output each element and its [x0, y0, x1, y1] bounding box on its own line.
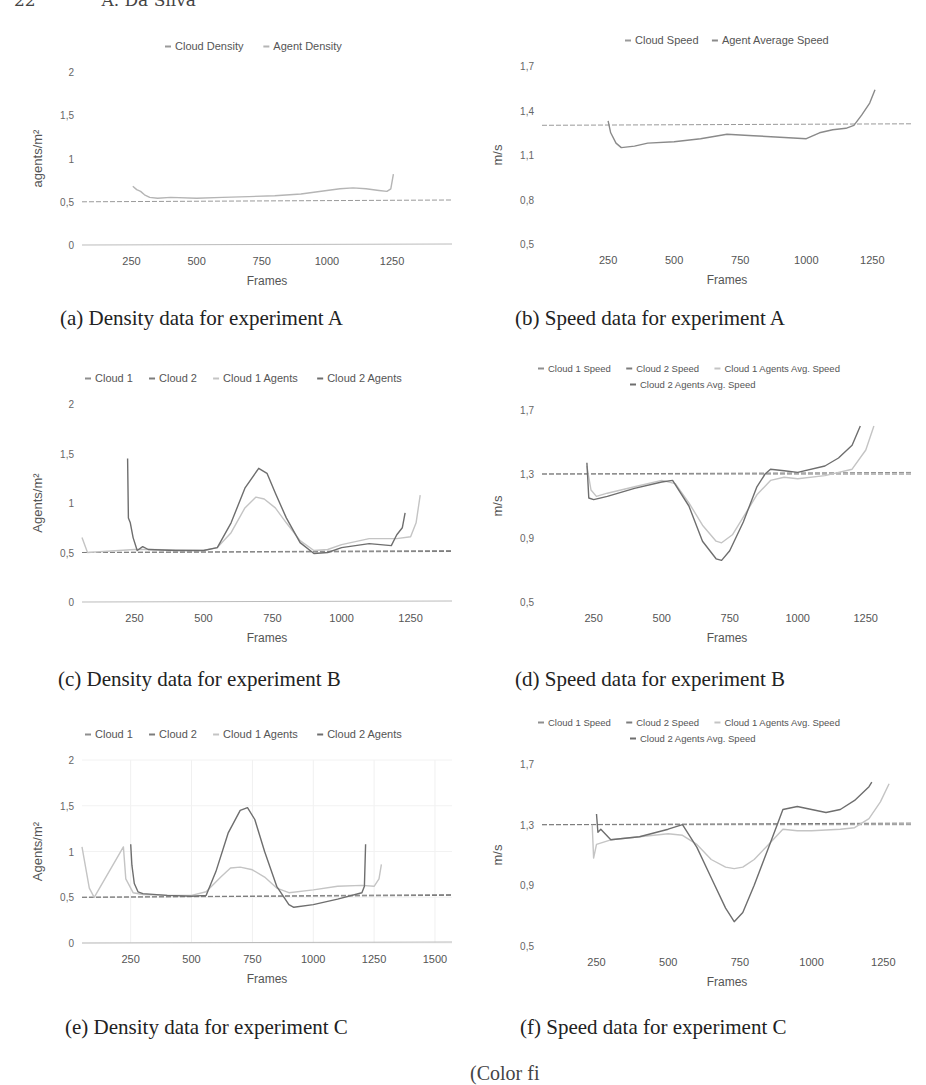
series-line	[592, 784, 889, 869]
x-tick-label: 500	[182, 953, 200, 965]
y-tick-label: 0,5	[60, 197, 74, 208]
y-axis-label: Agents/m²	[30, 821, 45, 881]
chart-legend: Cloud 1Cloud 2Cloud 1 AgentsCloud 2 Agen…	[85, 372, 402, 384]
x-tick-label: 250	[585, 612, 603, 624]
x-tick-label: 1250	[362, 953, 386, 965]
legend-label: Cloud 1 Agents	[223, 372, 298, 384]
y-tick-label: 1,4	[520, 106, 534, 117]
y-tick-label: 0,5	[520, 239, 534, 250]
caption-a: (a) Density data for experiment A	[60, 306, 343, 331]
x-axis-label: Frames	[707, 975, 748, 989]
legend-label: Cloud 1 Speed	[548, 717, 611, 728]
legend-label: Cloud 1 Speed	[548, 363, 611, 374]
legend-label: Cloud 2 Speed	[636, 363, 699, 374]
caption-d: (d) Speed data for experiment B	[515, 667, 785, 692]
legend-label: Agent Density	[273, 40, 342, 52]
caption-c: (c) Density data for experiment B	[58, 667, 341, 692]
y-tick-label: 0,5	[520, 941, 534, 952]
legend-label: Cloud 1	[95, 728, 133, 740]
y-tick-label: 0	[68, 597, 74, 608]
caption-f: (f) Speed data for experiment C	[520, 1015, 786, 1040]
x-tick-label: 1000	[329, 612, 353, 624]
legend-label: Cloud 2 Agents	[327, 728, 402, 740]
y-tick-label: 1,7	[520, 759, 534, 770]
x-tick-label: 1250	[871, 956, 895, 968]
x-tick-label: 1000	[315, 255, 339, 267]
x-axis-label: Frames	[247, 631, 288, 645]
caption-b: (b) Speed data for experiment A	[515, 306, 785, 331]
series-line	[131, 808, 366, 908]
legend-label: Cloud 2	[159, 372, 197, 384]
chart-svg: Cloud 1 SpeedCloud 2 SpeedCloud 1 Agents…	[480, 712, 920, 1002]
y-tick-label: 0,9	[520, 533, 534, 544]
y-tick-label: 0,5	[520, 597, 534, 608]
x-tick-label: 250	[122, 255, 140, 267]
legend-label: Cloud Speed	[635, 34, 699, 46]
chart-d-speed-experiment-b: Cloud 1 SpeedCloud 2 SpeedCloud 1 Agents…	[480, 358, 920, 658]
chart-legend: Cloud 1 SpeedCloud 2 SpeedCloud 1 Agents…	[538, 717, 840, 744]
chart-legend: Cloud 1 SpeedCloud 2 SpeedCloud 1 Agents…	[538, 363, 840, 390]
series-line	[82, 552, 452, 553]
chart-svg: Cloud DensityAgent Density00,511,5225050…	[20, 36, 460, 301]
y-tick-label: 2	[68, 399, 74, 410]
legend-label: Cloud 2 Agents Avg. Speed	[640, 733, 756, 744]
x-tick-label: 500	[659, 956, 677, 968]
legend-label: Cloud 2 Agents Avg. Speed	[640, 379, 756, 390]
x-tick-label: 1000	[785, 612, 809, 624]
x-tick-label: 750	[731, 254, 749, 266]
y-axis-label: m/s	[490, 144, 505, 165]
x-tick-label: 1250	[854, 612, 878, 624]
series-line	[82, 200, 452, 202]
chart-f-speed-experiment-c: Cloud 1 SpeedCloud 2 SpeedCloud 1 Agents…	[480, 712, 920, 1002]
x-tick-label: 250	[587, 956, 605, 968]
x-axis-label: Frames	[247, 972, 288, 986]
y-axis-label: m/s	[490, 495, 505, 516]
x-tick-label: 1000	[794, 254, 818, 266]
x-tick-label: 750	[731, 956, 749, 968]
chart-svg: Cloud 1 SpeedCloud 2 SpeedCloud 1 Agents…	[480, 358, 920, 658]
chart-svg: Cloud 1Cloud 2Cloud 1 AgentsCloud 2 Agen…	[20, 724, 460, 999]
x-tick-label: 1250	[860, 254, 884, 266]
x-axis-line	[82, 244, 452, 245]
legend-label: Cloud 1 Agents Avg. Speed	[724, 363, 840, 374]
x-tick-label: 500	[194, 612, 212, 624]
x-tick-label: 1250	[380, 255, 404, 267]
series-line	[542, 124, 912, 126]
x-axis-line	[82, 601, 452, 602]
y-tick-label: 0,8	[520, 195, 534, 206]
legend-label: Cloud 2 Speed	[636, 717, 699, 728]
chart-e-density-experiment-c: Cloud 1Cloud 2Cloud 1 AgentsCloud 2 Agen…	[20, 724, 460, 999]
page-number: 22	[14, 0, 96, 10]
y-tick-label: 1	[68, 154, 74, 165]
x-tick-label: 500	[187, 255, 205, 267]
footer-partial-text: (Color fi	[470, 1062, 539, 1085]
running-head: A. Da Silva	[101, 0, 196, 10]
chart-c-density-experiment-b: Cloud 1Cloud 2Cloud 1 AgentsCloud 2 Agen…	[20, 368, 460, 658]
series-line	[587, 426, 860, 560]
y-tick-label: 1	[68, 847, 74, 858]
chart-b-speed-experiment-a: Cloud SpeedAgent Average Speed0,50,81,11…	[480, 30, 920, 300]
legend-label: Cloud 1 Agents Avg. Speed	[724, 717, 840, 728]
chart-legend: Cloud DensityAgent Density	[165, 40, 342, 52]
chart-legend: Cloud 1Cloud 2Cloud 1 AgentsCloud 2 Agen…	[85, 728, 402, 740]
y-tick-label: 0,5	[60, 892, 74, 903]
x-tick-label: 1500	[423, 953, 447, 965]
x-tick-label: 250	[599, 254, 617, 266]
chart-svg: Cloud SpeedAgent Average Speed0,50,81,11…	[480, 30, 920, 300]
x-tick-label: 1000	[301, 953, 325, 965]
y-tick-label: 0,5	[60, 548, 74, 559]
series-line	[587, 426, 874, 543]
x-tick-label: 750	[263, 612, 281, 624]
x-tick-label: 500	[653, 612, 671, 624]
y-tick-label: 0	[68, 240, 74, 251]
x-tick-label: 750	[243, 953, 261, 965]
chart-svg: Cloud 1Cloud 2Cloud 1 AgentsCloud 2 Agen…	[20, 368, 460, 658]
y-axis-label: m/s	[490, 844, 505, 865]
series-line	[608, 90, 875, 148]
y-tick-label: 1,7	[520, 61, 534, 72]
y-axis-label: Agents/m²	[30, 473, 45, 533]
x-tick-label: 750	[253, 255, 271, 267]
y-tick-label: 2	[68, 67, 74, 78]
series-line	[82, 847, 381, 897]
y-tick-label: 1,5	[60, 449, 74, 460]
